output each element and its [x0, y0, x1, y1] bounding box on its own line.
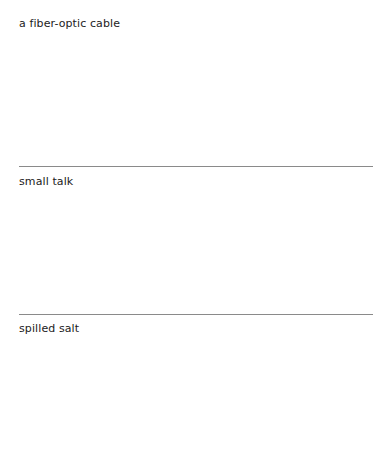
item-label: small talk: [19, 175, 73, 189]
item-label: spilled salt: [19, 322, 79, 336]
list-item[interactable]: small talk: [19, 167, 373, 314]
list-item[interactable]: a fiber-optic cable: [19, 0, 373, 147]
list-item[interactable]: spilled salt: [19, 315, 373, 454]
item-label: a fiber-optic cable: [19, 17, 120, 31]
